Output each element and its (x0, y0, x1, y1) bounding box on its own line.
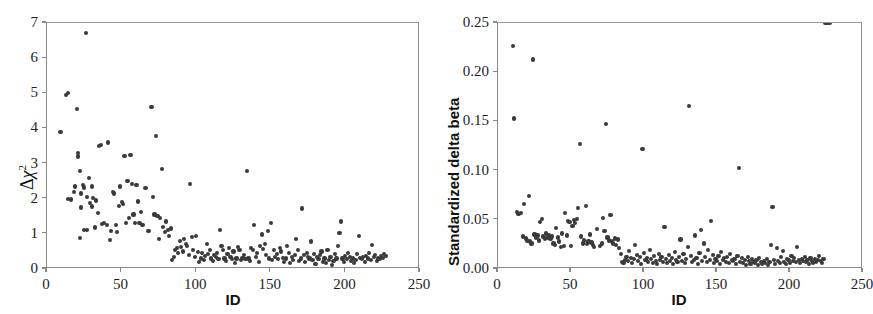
data-point (299, 256, 303, 260)
scatter-points-right (498, 23, 861, 267)
data-point (600, 241, 604, 245)
data-point (769, 243, 773, 247)
data-point (686, 245, 690, 249)
data-point (161, 225, 165, 229)
x-tick-mark (788, 268, 789, 272)
data-point (106, 140, 110, 144)
data-point (263, 242, 267, 246)
y-tick-mark (42, 92, 46, 93)
data-point (169, 226, 173, 230)
x-tick-mark (195, 268, 196, 272)
data-point (638, 255, 642, 259)
data-point (237, 248, 241, 252)
x-tick-label: 150 (705, 276, 728, 293)
data-point (540, 217, 544, 221)
x-tick-mark (569, 268, 570, 272)
data-point (218, 228, 222, 232)
y-tick-mark (42, 57, 46, 58)
data-point (673, 250, 677, 254)
data-point (718, 262, 722, 266)
data-point (588, 232, 592, 236)
data-point (602, 229, 606, 233)
data-point (633, 243, 637, 247)
data-point (93, 225, 97, 229)
x-tick-label: 100 (632, 276, 655, 293)
data-point (550, 234, 554, 238)
data-point (96, 211, 100, 215)
data-point (294, 237, 298, 241)
data-point (233, 261, 237, 265)
data-point (254, 255, 258, 259)
data-point (128, 153, 132, 157)
data-point (709, 219, 713, 223)
x-tick-label: 50 (113, 276, 128, 293)
data-point (537, 238, 541, 242)
data-point (595, 227, 599, 231)
data-point (160, 167, 164, 171)
data-point (694, 256, 698, 260)
data-point (73, 184, 77, 188)
data-point (115, 230, 119, 234)
data-point (127, 216, 131, 220)
delta-symbol: Δ (17, 178, 37, 190)
y-tick-label: 0.00 (435, 260, 489, 277)
data-point (616, 237, 620, 241)
data-point (527, 194, 531, 198)
data-point (576, 206, 580, 210)
data-point (678, 237, 682, 241)
x-tick-label: 200 (333, 276, 356, 293)
x-tick-label: 250 (851, 276, 873, 293)
y-tick-mark (493, 71, 497, 72)
data-point (728, 252, 732, 256)
data-point (78, 169, 82, 173)
data-point (627, 249, 631, 253)
y-axis-title-right: Standardized delta beta (445, 98, 462, 266)
data-point (322, 256, 326, 260)
data-point (151, 195, 155, 199)
data-point (105, 223, 109, 227)
data-point (84, 31, 88, 35)
data-point (188, 182, 192, 186)
data-point (328, 255, 332, 259)
data-point (703, 255, 707, 259)
y-tick-mark (42, 162, 46, 163)
plot-area-right (497, 22, 862, 268)
data-point (699, 228, 703, 232)
y-tick-label: 4 (0, 119, 38, 136)
data-point (99, 143, 103, 147)
data-point (367, 251, 371, 255)
data-point (284, 256, 288, 260)
data-point (560, 231, 564, 235)
data-point (158, 216, 162, 220)
data-point (300, 206, 304, 210)
data-point (194, 234, 198, 238)
data-point (384, 254, 388, 258)
data-point (257, 260, 261, 264)
y-tick-mark (42, 197, 46, 198)
data-point (592, 245, 596, 249)
data-point (216, 257, 220, 261)
y-tick-label: 6 (0, 49, 38, 66)
x-tick-mark (418, 268, 419, 272)
data-point (554, 226, 558, 230)
data-point (737, 166, 741, 170)
data-point (125, 179, 129, 183)
data-point (255, 251, 259, 255)
data-point (325, 248, 329, 252)
data-point (157, 237, 161, 241)
data-point (221, 248, 225, 252)
data-point (316, 257, 320, 261)
data-point (139, 210, 143, 214)
data-point (519, 211, 523, 215)
x-tick-label: 50 (563, 276, 578, 293)
plot-area-left (46, 22, 419, 268)
data-point (511, 44, 515, 48)
data-point (781, 249, 785, 253)
x-tick-mark (496, 268, 497, 272)
data-point (529, 241, 533, 245)
data-point (66, 91, 70, 95)
data-point (767, 260, 771, 264)
data-point (655, 262, 659, 266)
data-point (535, 233, 539, 237)
